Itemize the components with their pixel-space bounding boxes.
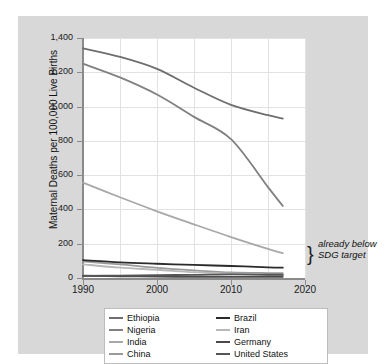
legend-item-germany[interactable]: Germany xyxy=(216,337,323,347)
legend-label: Ethiopia xyxy=(127,313,160,323)
legend-label: Nigeria xyxy=(127,325,156,335)
sdg-annotation-line2: SDG target xyxy=(318,249,377,260)
legend-item-united-states[interactable]: United States xyxy=(216,349,323,359)
legend-swatch-icon xyxy=(109,317,123,320)
legend-swatch-icon xyxy=(109,353,123,356)
legend-item-nigeria[interactable]: Nigeria xyxy=(109,325,216,335)
legend-label: China xyxy=(127,349,151,359)
legend-swatch-icon xyxy=(109,329,123,332)
legend-label: United States xyxy=(234,349,288,359)
chart-root: 02004006008001,0001,2001,400 19902000201… xyxy=(0,0,386,364)
legend-item-india[interactable]: India xyxy=(109,337,216,347)
sdg-brace: } xyxy=(307,244,314,264)
figure-panel: 02004006008001,0001,2001,400 19902000201… xyxy=(18,16,368,354)
legend-item-china[interactable]: China xyxy=(109,349,216,359)
series-line-united-states xyxy=(83,274,283,276)
legend-swatch-icon xyxy=(216,341,230,344)
legend-label: Germany xyxy=(234,337,271,347)
series-line-india xyxy=(83,183,283,253)
legend-swatch-icon xyxy=(216,329,230,332)
legend-label: Brazil xyxy=(234,313,257,323)
series-line-nigeria xyxy=(83,64,283,206)
legend-item-ethiopia[interactable]: Ethiopia xyxy=(109,313,216,323)
legend-label: India xyxy=(127,337,147,347)
legend: EthiopiaBrazilNigeriaIranIndiaGermanyChi… xyxy=(104,308,328,364)
legend-swatch-icon xyxy=(216,353,230,356)
legend-swatch-icon xyxy=(216,317,230,320)
legend-label: Iran xyxy=(234,325,250,335)
legend-item-iran[interactable]: Iran xyxy=(216,325,323,335)
sdg-annotation: already below SDG target xyxy=(318,238,377,260)
series-line-ethiopia xyxy=(83,48,283,118)
series-lines xyxy=(18,16,368,354)
legend-swatch-icon xyxy=(109,341,123,344)
legend-item-brazil[interactable]: Brazil xyxy=(216,313,323,323)
sdg-annotation-line1: already below xyxy=(318,238,377,249)
